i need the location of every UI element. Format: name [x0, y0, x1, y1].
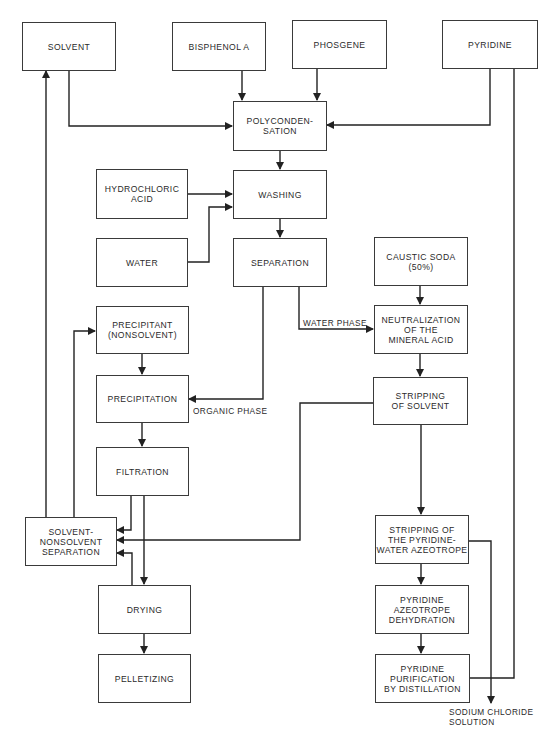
node-label: PRECIPITATION: [108, 394, 178, 404]
node-label: PHOSGENE: [314, 40, 366, 50]
node-solvent: SOLVENT: [22, 22, 116, 71]
node-label: PYRIDINE AZEOTROPE DEHYDRATION: [389, 595, 455, 625]
node-label: STRIPPING OF SOLVENT: [392, 391, 450, 411]
node-label: SOLVENT- NONSOLVENT SEPARATION: [40, 527, 103, 557]
node-caustic-soda: CAUSTIC SODA (50%): [374, 237, 468, 286]
arrow-snsep-to-precipitant: [74, 331, 95, 517]
node-label: WASHING: [258, 190, 302, 200]
arrow-drying-to-snsep: [117, 553, 132, 585]
node-label: SOLVENT: [48, 42, 90, 52]
arrow-organic-phase: [189, 286, 263, 399]
node-stripping-pyridine-water: STRIPPING OF THE PYRIDINE- WATER AZEOTRO…: [375, 515, 469, 564]
arrow-filtration-to-snsep: [117, 495, 131, 530]
node-label: PYRIDINE PURIFICATION BY DISTILLATION: [384, 664, 461, 694]
node-washing: WASHING: [233, 170, 327, 219]
node-label: BISPHENOL A: [189, 42, 250, 52]
arrow-water-to-washing: [187, 207, 232, 262]
arrow-pyridine-to-polycondensation: [327, 68, 490, 125]
node-label: DRYING: [127, 605, 163, 615]
node-bisphenol-a: BISPHENOL A: [172, 22, 266, 71]
node-label: SEPARATION: [251, 258, 309, 268]
label-sodium-chloride-solution: SODIUM CHLORIDE SOLUTION: [449, 707, 533, 727]
node-label: PRECIPITANT (NONSOLVENT): [108, 320, 177, 340]
node-label: STRIPPING OF THE PYRIDINE- WATER AZEOTRO…: [377, 525, 468, 555]
node-precipitant: PRECIPITANT (NONSOLVENT): [96, 306, 189, 354]
node-label: NEUTRALIZATION OF THE MINERAL ACID: [382, 315, 461, 345]
node-neutralization: NEUTRALIZATION OF THE MINERAL ACID: [374, 305, 468, 354]
node-stripping-of-solvent: STRIPPING OF SOLVENT: [373, 377, 468, 425]
node-pyridine: PYRIDINE: [442, 20, 538, 69]
node-filtration: FILTRATION: [96, 447, 189, 496]
node-drying: DRYING: [98, 585, 191, 634]
node-pelletizing: PELLETIZING: [98, 654, 191, 703]
node-polycondensation: POLYCONDEN- SATION: [233, 101, 327, 151]
node-phosgene: PHOSGENE: [292, 20, 387, 69]
label-organic-phase: ORGANIC PHASE: [193, 406, 267, 416]
node-separation: SEPARATION: [233, 238, 327, 287]
node-label: PELLETIZING: [115, 674, 174, 684]
label-water-phase: WATER PHASE: [303, 318, 367, 328]
node-label: WATER: [126, 258, 158, 268]
node-pyridine-azeotrope-dehydration: PYRIDINE AZEOTROPE DEHYDRATION: [375, 585, 469, 634]
node-label: PYRIDINE: [468, 40, 512, 50]
node-hydrochloric-acid: HYDROCHLORIC ACID: [96, 169, 188, 219]
node-label: FILTRATION: [116, 467, 169, 477]
node-solvent-nonsolvent-separation: SOLVENT- NONSOLVENT SEPARATION: [25, 517, 117, 566]
node-precipitation: PRECIPITATION: [96, 375, 189, 423]
arrow-solvent-to-polycondensation: [69, 70, 232, 126]
node-label: CAUSTIC SODA (50%): [386, 252, 455, 272]
node-label: POLYCONDEN- SATION: [247, 116, 314, 136]
node-pyridine-purification: PYRIDINE PURIFICATION BY DISTILLATION: [375, 654, 470, 703]
node-label: HYDROCHLORIC ACID: [105, 184, 180, 204]
node-water: WATER: [96, 238, 188, 287]
